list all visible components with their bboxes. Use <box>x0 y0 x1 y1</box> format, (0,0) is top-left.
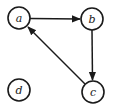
node-a: a <box>8 7 30 29</box>
node-b-label: b <box>88 13 95 26</box>
edge-a-to-b <box>30 19 80 20</box>
node-c-label: c <box>90 86 96 99</box>
node-d-label: d <box>15 84 22 97</box>
edge-b-to-c <box>92 30 93 80</box>
node-a-label: a <box>16 12 23 25</box>
edge-c-to-a <box>28 27 85 84</box>
node-b: b <box>81 8 103 30</box>
node-c: c <box>82 81 104 103</box>
node-d: d <box>8 79 30 101</box>
graph-canvas: a b c d <box>0 0 115 111</box>
